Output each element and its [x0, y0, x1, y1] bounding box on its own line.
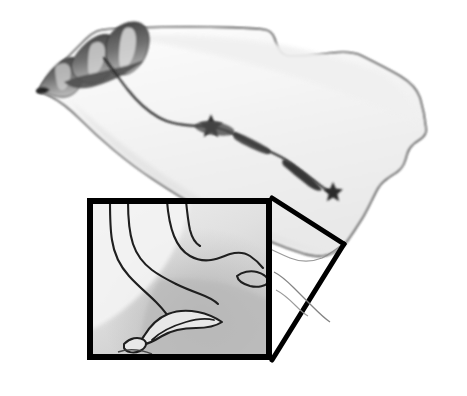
map-figure: State outline map with magnified coastal…: [0, 0, 467, 396]
inset-content: [90, 201, 269, 357]
inset-detail-box: [90, 201, 269, 357]
map-canvas: [0, 0, 467, 396]
